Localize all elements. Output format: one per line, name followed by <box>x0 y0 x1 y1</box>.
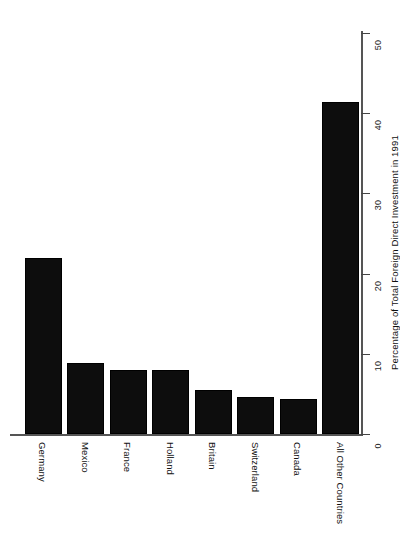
value-tick-0 <box>361 434 370 435</box>
bar-holland[interactable] <box>152 370 189 434</box>
value-tick-label-20: 20 <box>374 280 383 290</box>
bar-switzerland[interactable] <box>237 397 274 434</box>
value-tick-label-40: 40 <box>374 120 383 130</box>
category-label-canada: Canada <box>292 442 302 476</box>
bar-all-other-countries[interactable] <box>322 102 359 434</box>
bar-britain[interactable] <box>195 390 232 434</box>
value-axis-line <box>361 31 363 436</box>
bar-mexico[interactable] <box>67 363 104 434</box>
bar-germany[interactable] <box>25 258 62 434</box>
category-label-holland: Holland <box>165 442 175 475</box>
value-tick-10 <box>361 354 370 355</box>
bars-layer <box>22 28 362 434</box>
value-tick-label-0: 0 <box>374 443 383 448</box>
category-label-mexico: Mexico <box>80 442 90 473</box>
value-axis-title: Percentage of Total Foreign Direct Inves… <box>390 135 400 370</box>
category-label-britain: Britain <box>207 442 217 470</box>
plot-area <box>22 28 362 434</box>
value-tick-label-30: 30 <box>374 200 383 210</box>
value-tick-20 <box>361 274 370 275</box>
value-tick-30 <box>361 193 370 194</box>
category-label-germany: Germany <box>37 442 47 482</box>
value-tick-40 <box>361 113 370 114</box>
category-label-all-other-countries: All Other Countries <box>335 442 345 524</box>
bar-canada[interactable] <box>280 399 317 434</box>
category-label-france: France <box>122 442 132 472</box>
value-tick-label-10: 10 <box>374 361 383 371</box>
value-tick-50 <box>361 33 370 34</box>
value-tick-label-50: 50 <box>374 40 383 50</box>
category-label-switzerland: Switzerland <box>250 442 260 492</box>
bar-france[interactable] <box>110 370 147 434</box>
category-axis-line <box>10 434 362 436</box>
